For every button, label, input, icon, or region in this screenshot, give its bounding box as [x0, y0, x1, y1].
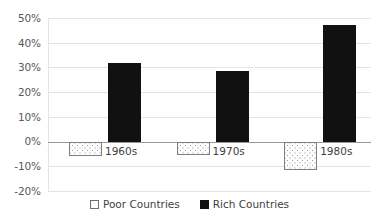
category-label-1960s: 1960s: [105, 145, 137, 157]
bar-group-1980s: 1980s: [263, 18, 371, 191]
y-tick-label: 10%: [18, 112, 41, 123]
bar-rich-countries-1970s[interactable]: [216, 71, 249, 141]
bar-poor-countries-1980s[interactable]: [284, 142, 317, 170]
category-label-1970s: 1970s: [213, 145, 245, 157]
bar-chart: 50% 40% 30% 20% 10% 0% -10% -20% 1960s 1…: [0, 0, 379, 221]
chart-legend: Poor Countries Rich Countries: [0, 198, 379, 210]
y-tick-label: -10%: [14, 161, 41, 172]
plot-area: 1960s 1970s 1980s: [48, 18, 371, 191]
y-axis: 50% 40% 30% 20% 10% 0% -10% -20%: [0, 0, 44, 221]
bar-rich-countries-1960s[interactable]: [108, 63, 141, 142]
legend-label-rich-countries: Rich Countries: [213, 198, 289, 210]
bar-group-1960s: 1960s: [48, 18, 156, 191]
bar-rich-countries-1980s[interactable]: [323, 25, 356, 141]
y-tick-label: 50%: [18, 13, 41, 24]
dotted-swatch-icon: [90, 200, 99, 209]
legend-item-poor-countries[interactable]: Poor Countries: [90, 198, 180, 210]
y-tick-label: 0%: [25, 136, 41, 147]
bar-group-1970s: 1970s: [156, 18, 264, 191]
solid-black-swatch-icon: [200, 200, 209, 209]
legend-item-rich-countries[interactable]: Rich Countries: [200, 198, 289, 210]
y-tick-label: 30%: [18, 62, 41, 73]
bar-poor-countries-1970s[interactable]: [177, 142, 210, 156]
gridline-minus20: [48, 191, 371, 192]
bar-poor-countries-1960s[interactable]: [69, 142, 102, 157]
y-tick-label: 40%: [18, 38, 41, 49]
category-label-1980s: 1980s: [320, 145, 352, 157]
y-tick-label: -20%: [14, 186, 41, 197]
y-tick-label: 20%: [18, 87, 41, 98]
legend-label-poor-countries: Poor Countries: [103, 198, 180, 210]
